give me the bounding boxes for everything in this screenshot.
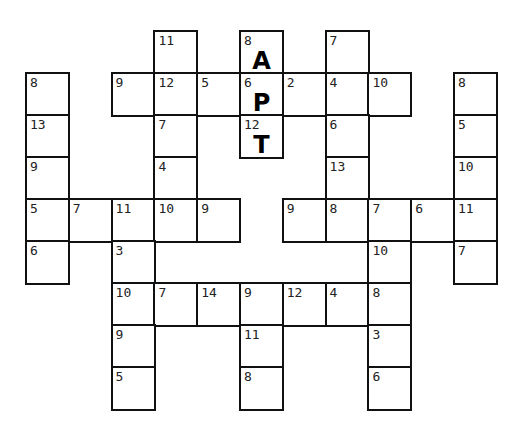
cell-number: 5 [30, 202, 38, 215]
cell-number: 11 [116, 202, 132, 215]
cell-number: 9 [244, 286, 252, 299]
cell-number: 6 [244, 76, 252, 89]
crossword-cell[interactable]: 8 [367, 282, 412, 327]
crossword-cell[interactable]: 4 [325, 282, 370, 327]
cell-number: 5 [458, 118, 466, 131]
cell-number: 8 [244, 34, 252, 47]
crossword-cell[interactable]: 8 [25, 72, 70, 117]
cell-number: 9 [116, 328, 124, 341]
cell-number: 7 [73, 202, 81, 215]
cell-letter: T [241, 133, 282, 157]
crossword-cell[interactable]: 7 [153, 282, 198, 327]
cell-number: 8 [330, 202, 338, 215]
cell-number: 8 [458, 76, 466, 89]
crossword-cell[interactable]: 6 [367, 366, 412, 411]
crossword-cell[interactable]: 7 [325, 30, 370, 75]
crossword-cell[interactable]: 11 [111, 198, 156, 243]
cell-number: 9 [30, 160, 38, 173]
crossword-cell[interactable]: 10 [153, 198, 198, 243]
cell-number: 8 [30, 76, 38, 89]
crossword-cell[interactable]: 2 [282, 72, 327, 117]
cell-number: 6 [30, 244, 38, 257]
cell-number: 5 [116, 370, 124, 383]
cell-number: 5 [201, 76, 209, 89]
crossword-cell[interactable]: 7 [453, 240, 498, 285]
crossword-cell[interactable]: 5 [111, 366, 156, 411]
cell-number: 9 [116, 76, 124, 89]
crossword-cell[interactable]: 8A [239, 30, 284, 75]
crossword-cell[interactable]: 13 [325, 156, 370, 201]
cell-number: 10 [372, 244, 388, 257]
cell-number: 12 [287, 286, 303, 299]
cell-number: 7 [330, 34, 338, 47]
crossword-cell[interactable]: 8 [325, 198, 370, 243]
cell-number: 11 [244, 328, 260, 341]
crossword-cell[interactable]: 12 [282, 282, 327, 327]
crossword-cell[interactable]: 9 [111, 324, 156, 369]
crossword-cell[interactable]: 4 [325, 72, 370, 117]
cell-number: 4 [158, 160, 166, 173]
crossword-cell[interactable]: 6 [410, 198, 455, 243]
cell-number: 6 [330, 118, 338, 131]
cell-number: 9 [287, 202, 295, 215]
crossword-cell[interactable]: 12 [153, 72, 198, 117]
crossword-cell[interactable]: 4 [153, 156, 198, 201]
crossword-cell[interactable]: 11 [453, 198, 498, 243]
crossword-cell[interactable]: 10 [367, 72, 412, 117]
cell-letter: A [241, 49, 282, 73]
cell-number: 2 [287, 76, 295, 89]
crossword-cell[interactable]: 9 [111, 72, 156, 117]
cell-number: 10 [372, 76, 388, 89]
crossword-cell[interactable]: 9 [25, 156, 70, 201]
crossword-cell[interactable]: 9 [196, 198, 241, 243]
cell-number: 9 [201, 202, 209, 215]
cell-number: 4 [330, 76, 338, 89]
cell-number: 7 [158, 286, 166, 299]
crossword-cell[interactable]: 6P [239, 72, 284, 117]
cell-number: 7 [458, 244, 466, 257]
cell-number: 13 [30, 118, 46, 131]
crossword-cell[interactable]: 14 [196, 282, 241, 327]
cell-number: 6 [415, 202, 423, 215]
cell-number: 12 [158, 76, 174, 89]
cell-number: 7 [158, 118, 166, 131]
crossword-cell[interactable]: 10 [111, 282, 156, 327]
crossword-cell[interactable]: 8 [453, 72, 498, 117]
cell-number: 8 [372, 286, 380, 299]
crossword-cell[interactable]: 10 [367, 240, 412, 285]
cell-number: 10 [116, 286, 132, 299]
crossword-cell[interactable]: 11 [153, 30, 198, 75]
crossword-cell[interactable]: 7 [68, 198, 113, 243]
cell-number: 10 [458, 160, 474, 173]
cell-number: 4 [330, 286, 338, 299]
crossword-cell[interactable]: 7 [153, 114, 198, 159]
cell-number: 3 [116, 244, 124, 257]
crossword-cell[interactable]: 5 [25, 198, 70, 243]
cell-number: 12 [244, 118, 260, 131]
cell-number: 14 [201, 286, 217, 299]
crossword-cell[interactable]: 8 [239, 366, 284, 411]
cell-number: 7 [372, 202, 380, 215]
cell-number: 3 [372, 328, 380, 341]
crossword-cell[interactable]: 3 [111, 240, 156, 285]
crossword-cell[interactable]: 9 [282, 198, 327, 243]
crossword-cell[interactable]: 3 [367, 324, 412, 369]
crossword-cell[interactable]: 5 [196, 72, 241, 117]
cell-number: 11 [158, 34, 174, 47]
crossword-cell[interactable]: 9 [239, 282, 284, 327]
cell-number: 11 [458, 202, 474, 215]
crossword-cell[interactable]: 12T [239, 114, 284, 159]
crossword-cell[interactable]: 7 [367, 198, 412, 243]
crossword-cell[interactable]: 10 [453, 156, 498, 201]
crossword-cell[interactable]: 6 [325, 114, 370, 159]
cell-number: 10 [158, 202, 174, 215]
crossword-grid: 118A7891256P2410813712T65941310571110998… [0, 0, 526, 427]
cell-number: 13 [330, 160, 346, 173]
crossword-cell[interactable]: 5 [453, 114, 498, 159]
cell-number: 8 [244, 370, 252, 383]
cell-letter: P [241, 91, 282, 115]
crossword-cell[interactable]: 6 [25, 240, 70, 285]
crossword-cell[interactable]: 13 [25, 114, 70, 159]
cell-number: 6 [372, 370, 380, 383]
crossword-cell[interactable]: 11 [239, 324, 284, 369]
